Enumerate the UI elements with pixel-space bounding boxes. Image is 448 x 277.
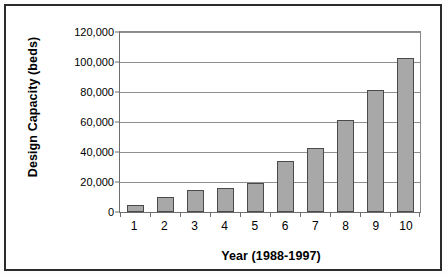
- bar[interactable]: [367, 90, 384, 212]
- bar-slot: [360, 32, 390, 212]
- x-tick-mark: [210, 212, 211, 217]
- x-tick-label: 6: [270, 219, 300, 233]
- x-tick-mark: [419, 212, 420, 217]
- bar-slot: [240, 32, 270, 212]
- bar[interactable]: [187, 190, 204, 213]
- x-tick-mark: [240, 212, 241, 217]
- bar[interactable]: [397, 58, 414, 213]
- x-tick-mark: [120, 212, 121, 217]
- plot-area: 120,000100,00080,00060,00040,00020,0000: [119, 31, 421, 213]
- x-tick-mark: [150, 212, 151, 217]
- bar-slot: [210, 32, 240, 212]
- x-tick-mark: [300, 212, 301, 217]
- x-tick-mark: [270, 212, 271, 217]
- bar[interactable]: [247, 183, 264, 212]
- x-tick-label: 5: [240, 219, 270, 233]
- x-tick-label: 4: [210, 219, 240, 233]
- x-tick-mark: [180, 212, 181, 217]
- x-tick-mark: [390, 212, 391, 217]
- bar-slot: [390, 32, 420, 212]
- x-tick-label: 1: [119, 219, 149, 233]
- y-tick-label: 80,000: [80, 86, 114, 98]
- y-tick-label: 60,000: [80, 116, 114, 128]
- bar[interactable]: [277, 161, 294, 212]
- y-tick-label: 20,000: [80, 176, 114, 188]
- y-axis-title: Design Capacity (beds): [26, 12, 40, 202]
- bar-slot: [180, 32, 210, 212]
- x-tick-label: 9: [361, 219, 391, 233]
- bar-series: [120, 32, 420, 212]
- x-tick-mark: [360, 212, 361, 217]
- y-tick-label: 0: [108, 206, 114, 218]
- chart-frame: Design Capacity (beds) 120,000100,00080,…: [4, 4, 442, 271]
- chart-screenshot: Design Capacity (beds) 120,000100,00080,…: [0, 0, 448, 277]
- x-axis-title: Year (1988-1997): [116, 249, 426, 263]
- bar[interactable]: [127, 205, 144, 212]
- bar-slot: [150, 32, 180, 212]
- x-tick-label: 3: [179, 219, 209, 233]
- x-tick-label: 10: [391, 219, 421, 233]
- bar-slot: [270, 32, 300, 212]
- bar-slot: [330, 32, 360, 212]
- y-tick-label: 40,000: [80, 146, 114, 158]
- bar-slot: [120, 32, 150, 212]
- y-tick-label: 100,000: [74, 56, 114, 68]
- x-tick-label: 7: [300, 219, 330, 233]
- y-tick-label: 120,000: [74, 26, 114, 38]
- bar[interactable]: [217, 188, 234, 212]
- bar[interactable]: [337, 120, 354, 212]
- x-axis-tick-labels: 12345678910: [119, 219, 421, 233]
- x-tick-label: 2: [149, 219, 179, 233]
- bar-slot: [300, 32, 330, 212]
- bar[interactable]: [307, 148, 324, 212]
- bar[interactable]: [157, 197, 174, 212]
- x-tick-label: 8: [330, 219, 360, 233]
- x-tick-mark: [330, 212, 331, 217]
